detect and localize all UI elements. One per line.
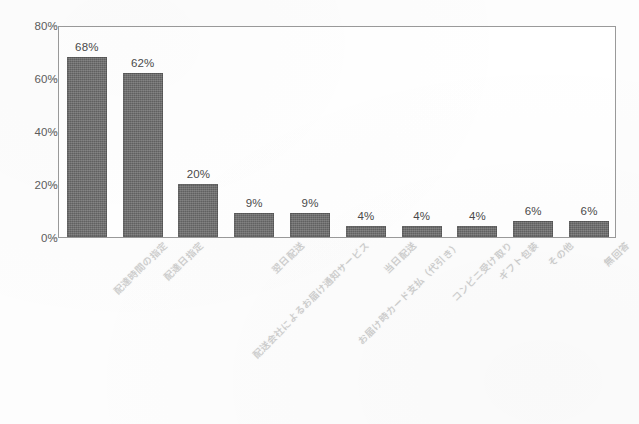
bar[interactable] — [290, 213, 330, 237]
x-axis-category-labels: 配達時間の指定配達日指定配送会社によるお届け通知サービス翌日配送お届け時カード支… — [58, 240, 616, 420]
x-axis-label: その他 — [547, 240, 576, 269]
bar-value-label: 4% — [469, 210, 486, 222]
x-axis-label: 無回答 — [603, 240, 632, 269]
bar-value-label: 6% — [581, 205, 598, 217]
x-axis-label: 翌日配送 — [271, 240, 307, 276]
bar-value-label: 20% — [187, 168, 211, 180]
plot-area: 68%62%20%9%9%4%4%4%6%6% — [58, 26, 616, 238]
y-tick-label-0: 0% — [10, 232, 58, 244]
bar[interactable] — [513, 221, 553, 237]
x-axis-label: 配達時間の指定 — [112, 240, 169, 297]
y-tick-mark-60 — [52, 79, 57, 80]
y-tick-label-20: 20% — [10, 179, 58, 191]
bar-series: 68%62%20%9%9%4%4%4%6%6% — [59, 27, 615, 237]
bar[interactable] — [67, 57, 107, 237]
y-axis: 80% 60% 40% 20% 0% — [0, 0, 58, 424]
y-tick-label-40: 40% — [10, 126, 58, 138]
bar[interactable] — [123, 73, 163, 237]
bar-slot: 4% — [394, 27, 450, 237]
bar[interactable] — [569, 221, 609, 237]
bar-value-label: 62% — [131, 57, 155, 69]
bar-slot: 20% — [171, 27, 227, 237]
bar-slot: 9% — [226, 27, 282, 237]
bar-slot: 68% — [59, 27, 115, 237]
x-axis-label: 当日配送 — [383, 240, 419, 276]
bar-slot: 4% — [338, 27, 394, 237]
bar[interactable] — [402, 226, 442, 237]
bar-chart-figure: 80% 60% 40% 20% 0% 68%62%20%9%9%4%4%4%6%… — [0, 0, 639, 424]
bar[interactable] — [457, 226, 497, 237]
bar-value-label: 9% — [246, 197, 263, 209]
bar-slot: 9% — [282, 27, 338, 237]
bar[interactable] — [346, 226, 386, 237]
bar-value-label: 4% — [413, 210, 430, 222]
x-axis-label: 配送会社によるお届け通知サービス — [250, 240, 371, 361]
bar-slot: 4% — [450, 27, 506, 237]
y-tick-mark-20 — [52, 185, 57, 186]
bar[interactable] — [178, 184, 218, 237]
y-tick-mark-0 — [52, 238, 57, 239]
bar[interactable] — [234, 213, 274, 237]
bar-value-label: 68% — [75, 41, 99, 53]
y-tick-label-80: 80% — [10, 20, 58, 32]
y-tick-mark-40 — [52, 132, 57, 133]
y-tick-label-60: 60% — [10, 73, 58, 85]
bar-value-label: 4% — [357, 210, 374, 222]
bar-value-label: 9% — [302, 197, 319, 209]
bar-slot: 62% — [115, 27, 171, 237]
y-tick-mark-80 — [52, 26, 57, 27]
bar-value-label: 6% — [525, 205, 542, 217]
bar-slot: 6% — [561, 27, 617, 237]
bar-slot: 6% — [505, 27, 561, 237]
